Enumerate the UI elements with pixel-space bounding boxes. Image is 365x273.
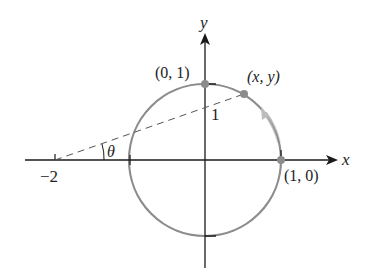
point-right [277,156,285,164]
unit-circle-diagram: y x (0, 1) (x, y) (1, 0) −2 1 θ [0,0,365,273]
label-neg-two: −2 [40,167,58,186]
direction-arc [265,113,279,143]
label-right-point: (1, 0) [284,167,319,185]
diagram-canvas: y x (0, 1) (x, y) (1, 0) −2 1 θ [0,0,365,273]
theta-angle-arc [102,144,104,160]
dashed-secant-line [55,94,244,160]
label-moving-point: (x, y) [247,68,280,86]
point-top [201,80,209,88]
x-axis-label: x [341,150,350,169]
label-one: 1 [211,105,220,124]
label-top-point: (0, 1) [155,64,190,82]
point-moving [240,90,248,98]
label-theta: θ [107,143,115,160]
y-axis-label: y [198,13,208,32]
